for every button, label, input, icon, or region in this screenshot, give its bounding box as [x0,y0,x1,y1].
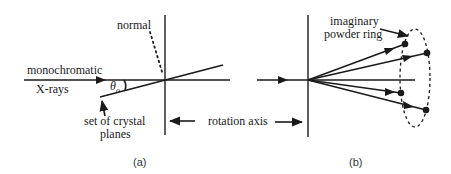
xray-diffraction-diagram: normal monochromatic X-rays θo set of cr… [0,0,451,174]
normal-label: normal [117,18,152,32]
ray-1-arrow-icon [384,48,395,55]
ray-4-arrow-icon [403,101,414,109]
incident-beam-arrow-icon [96,76,106,84]
panel-a: normal monochromatic X-rays θo set of cr… [24,15,230,168]
rotation-axis-label-group: rotation axis [170,114,302,128]
ring-label-line2: powder ring [324,27,382,41]
ray-3-dot [398,90,405,97]
angle-symbol: θo [110,79,120,95]
ring-pointer-arrow [380,29,408,36]
ray-2-dot [424,50,431,57]
planes-label-line1: set of crystal [84,114,146,128]
ray-3-arrow-icon [385,88,395,96]
beam-label-line1: monochromatic [27,63,102,77]
panel-b: imaginary powder ring (b) [257,14,430,168]
normal-dotted-line [150,32,163,75]
angle-arc [124,80,126,90]
rotation-axis-label: rotation axis [208,114,268,128]
incident-beam-arrow-b-icon [278,76,288,84]
ray-4-dot [423,107,430,114]
planes-label-line2: planes [100,127,131,141]
caption-b: (b) [349,156,362,168]
ray-2-arrow-icon [402,55,413,62]
beam-label-line2: X-rays [36,82,69,96]
ray-1-dot [402,41,409,48]
ring-label-line1: imaginary [330,14,379,28]
caption-a: (a) [133,156,146,168]
diffracted-rays [308,41,430,114]
